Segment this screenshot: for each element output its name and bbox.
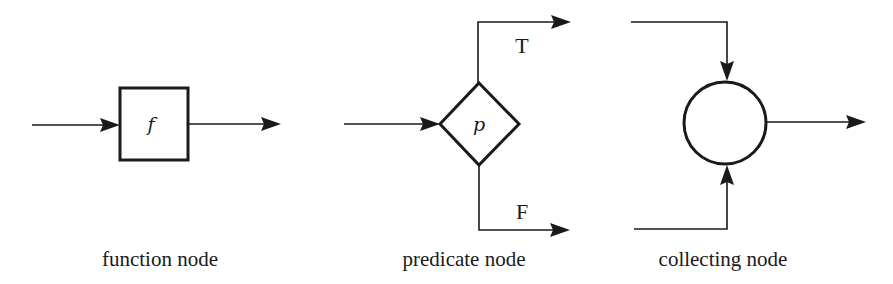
collecting-bottom-input-edge bbox=[634, 178, 727, 229]
arrowhead-icon bbox=[720, 61, 734, 81]
predicate-node-symbol: p bbox=[473, 113, 485, 135]
arrowhead-icon bbox=[550, 223, 570, 237]
true-branch-label: T bbox=[515, 33, 529, 58]
predicate-node-group: p T F predicate node bbox=[344, 15, 571, 271]
arrowhead-icon bbox=[720, 165, 734, 185]
arrowhead-icon bbox=[420, 117, 440, 131]
arrowhead-icon bbox=[551, 15, 571, 29]
collecting-node-group: collecting node bbox=[631, 22, 866, 271]
arrowhead-icon bbox=[100, 118, 120, 132]
arrowhead-icon bbox=[846, 115, 866, 129]
function-node-group: f function node bbox=[32, 88, 281, 271]
arrowhead-icon bbox=[261, 117, 281, 131]
node-types-diagram: f function node p T F predicate node bbox=[0, 0, 893, 284]
function-node-caption: function node bbox=[102, 247, 218, 271]
collecting-node-circle bbox=[684, 82, 766, 164]
false-branch-label: F bbox=[516, 199, 528, 224]
predicate-node-caption: predicate node bbox=[402, 247, 525, 271]
collecting-node-caption: collecting node bbox=[659, 247, 788, 271]
collecting-top-input-edge bbox=[631, 22, 727, 68]
